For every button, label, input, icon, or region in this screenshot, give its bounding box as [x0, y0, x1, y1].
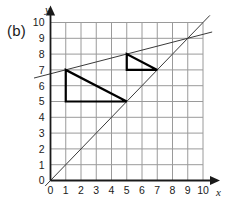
x-tick-label: 4	[109, 184, 115, 196]
x-axis-arrowhead	[210, 176, 220, 185]
x-tick-label: 6	[139, 184, 145, 196]
x-tick-label: 10	[197, 184, 209, 196]
y-tick-label: 0	[39, 174, 45, 186]
y-tick-label: 2	[39, 143, 45, 155]
x-tick-label: 1	[63, 184, 69, 196]
x-axis-label: x	[215, 186, 221, 198]
y-axis-label: y	[44, 3, 50, 15]
x-tick-label: 7	[154, 184, 160, 196]
figure-panel-b: (b) 012345678910012345678910 x y	[0, 0, 227, 204]
y-tick-label: 9	[39, 32, 45, 44]
y-tick-label: 6	[39, 80, 45, 92]
x-tick-label: 0	[48, 184, 54, 196]
x-tick-label: 3	[93, 184, 99, 196]
y-tick-label: 3	[39, 127, 45, 139]
y-tick-label: 10	[33, 16, 45, 28]
y-tick-label: 4	[39, 111, 45, 123]
x-tick-label: 9	[185, 184, 191, 196]
shallow-line	[34, 32, 212, 78]
x-tick-label: 2	[78, 184, 84, 196]
y-tick-label: 7	[39, 64, 45, 76]
x-tick-label: 5	[124, 184, 130, 196]
x-tick-label: 8	[170, 184, 176, 196]
y-tick-label: 8	[39, 48, 45, 60]
y-tick-label: 1	[39, 159, 45, 171]
y-tick-label: 5	[39, 95, 45, 107]
coordinate-plot: 012345678910012345678910 x y	[0, 0, 227, 204]
